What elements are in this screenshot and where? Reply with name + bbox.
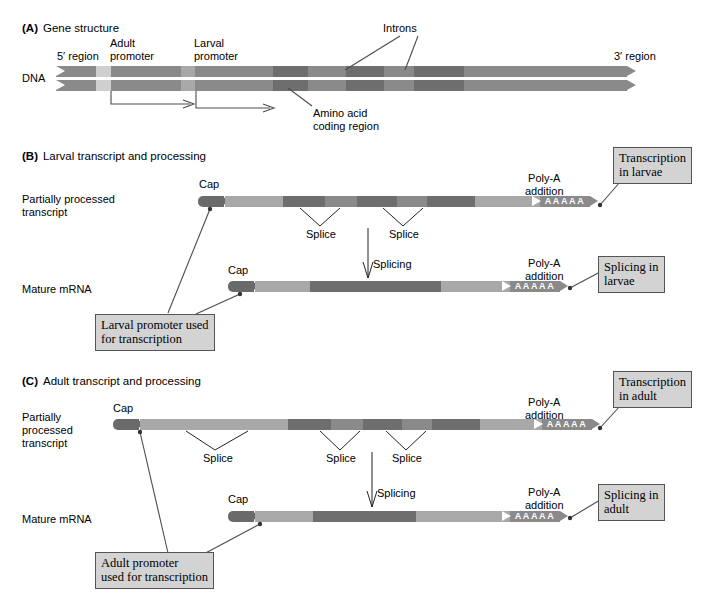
callout-splicing-adult[interactable]: Splicing in adult bbox=[598, 484, 665, 521]
panel-c-annotations bbox=[0, 0, 701, 595]
callout-adult-promoter[interactable]: Adult promoter used for transcription bbox=[95, 552, 214, 589]
callout-transcription-adult[interactable]: Transcription in adult bbox=[613, 371, 692, 408]
figure-canvas: (A)Gene structure DNA 5′ region 3′ regio… bbox=[0, 0, 701, 595]
